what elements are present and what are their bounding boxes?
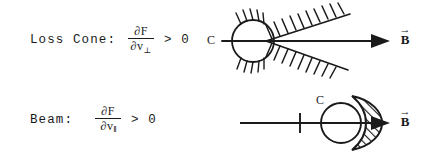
- beam-diagram: [0, 0, 445, 159]
- field-symbol-b: B: [392, 115, 418, 128]
- beam-row: Beam: ∂F ∂v‖ > 0: [0, 0, 445, 79]
- beam-circle-label: C: [316, 93, 324, 108]
- beam-field-label: → B: [392, 106, 418, 128]
